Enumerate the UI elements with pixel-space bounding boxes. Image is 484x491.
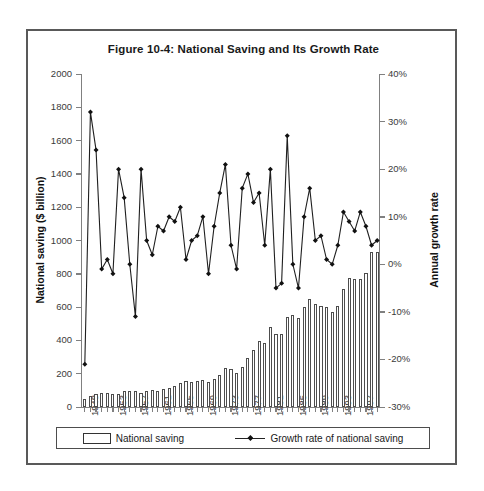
data-point-marker <box>268 167 273 172</box>
chart-title: Figure 10-4: National Saving and Its Gro… <box>28 43 459 55</box>
data-point-marker <box>335 243 340 248</box>
x-tick <box>180 408 181 412</box>
data-point-marker <box>347 219 352 224</box>
x-tick <box>157 408 158 412</box>
plot-area: 0200400600800100012001400160018002000 -3… <box>82 74 380 407</box>
x-tick <box>90 408 91 412</box>
data-point-marker <box>285 133 290 138</box>
x-tick <box>354 408 355 412</box>
x-tick <box>197 408 198 412</box>
right-axis-title: Annual growth rate <box>428 192 440 288</box>
right-tick <box>380 169 385 170</box>
data-point-marker <box>251 200 256 205</box>
left-tick-label: 0 <box>32 402 72 412</box>
x-tick <box>247 408 248 412</box>
x-tick <box>275 408 276 412</box>
x-tick <box>174 408 175 412</box>
data-point-marker <box>99 267 104 272</box>
x-tick <box>152 408 153 412</box>
data-point-marker <box>200 214 205 219</box>
data-point-marker <box>127 262 132 267</box>
x-tick <box>348 408 349 412</box>
right-tick-label: -30% <box>388 402 430 412</box>
data-point-marker <box>302 214 307 219</box>
left-tick <box>76 307 81 308</box>
x-tick <box>326 408 327 412</box>
left-tick <box>76 340 81 341</box>
right-tick <box>380 311 385 312</box>
right-tick-label: 10% <box>388 212 430 222</box>
left-tick <box>76 173 81 174</box>
x-tick <box>95 408 96 412</box>
x-tick <box>360 408 361 412</box>
data-point-marker <box>144 238 149 243</box>
right-tick <box>380 264 385 265</box>
x-tick <box>135 408 136 412</box>
data-point-marker <box>105 257 110 262</box>
x-tick <box>112 408 113 412</box>
x-tick <box>287 408 288 412</box>
left-tick <box>76 107 81 108</box>
x-tick <box>236 408 237 412</box>
right-tick-label: 20% <box>388 164 430 174</box>
data-point-marker <box>206 271 211 276</box>
data-point-marker <box>116 167 121 172</box>
data-point-marker <box>184 257 189 262</box>
data-point-marker <box>296 286 301 291</box>
figure-frame: Figure 10-4: National Saving and Its Gro… <box>26 29 457 465</box>
x-tick <box>230 408 231 412</box>
x-tick <box>208 408 209 412</box>
data-point-marker <box>150 252 155 257</box>
legend-item-national-saving: National saving <box>83 433 184 444</box>
x-tick <box>118 408 119 412</box>
x-tick <box>225 408 226 412</box>
right-tick-label: -10% <box>388 307 430 317</box>
x-tick <box>202 408 203 412</box>
growth-rate-line <box>85 112 377 364</box>
right-tick <box>380 74 385 75</box>
x-tick <box>146 408 147 412</box>
x-tick <box>309 408 310 412</box>
data-point-marker <box>178 205 183 210</box>
data-point-marker <box>307 186 312 191</box>
left-axis-title: National saving ($ billion) <box>34 176 46 303</box>
legend-label-growth-rate: Growth rate of national saving <box>270 433 403 444</box>
x-tick <box>253 408 254 412</box>
x-tick <box>292 408 293 412</box>
left-tick <box>76 140 81 141</box>
line-swatch-icon <box>235 434 265 443</box>
x-tick <box>270 408 271 412</box>
left-tick <box>76 373 81 374</box>
x-tick <box>281 408 282 412</box>
data-point-marker <box>240 186 245 191</box>
data-point-marker <box>358 209 363 214</box>
chart-legend: National saving Growth rate of national … <box>56 427 430 449</box>
data-point-marker <box>245 171 250 176</box>
x-tick <box>191 408 192 412</box>
x-tick <box>298 408 299 412</box>
left-tick-label: 2000 <box>32 69 72 79</box>
data-point-marker <box>229 243 234 248</box>
x-tick <box>371 408 372 412</box>
x-tick <box>214 408 215 412</box>
data-point-marker <box>290 262 295 267</box>
x-tick <box>264 408 265 412</box>
left-tick-label: 1600 <box>32 136 72 146</box>
x-tick <box>242 408 243 412</box>
x-tick <box>332 408 333 412</box>
right-tick <box>380 407 385 408</box>
left-tick <box>76 74 81 75</box>
left-tick <box>76 273 81 274</box>
right-tick <box>380 216 385 217</box>
data-point-marker <box>234 267 239 272</box>
x-tick <box>101 408 102 412</box>
x-tick <box>140 408 141 412</box>
right-tick-label: -20% <box>388 354 430 364</box>
x-tick <box>169 408 170 412</box>
line-series <box>82 74 380 407</box>
x-tick <box>320 408 321 412</box>
data-point-marker <box>262 243 267 248</box>
data-point-marker <box>223 162 228 167</box>
left-tick-label: 1800 <box>32 102 72 112</box>
right-tick <box>380 121 385 122</box>
